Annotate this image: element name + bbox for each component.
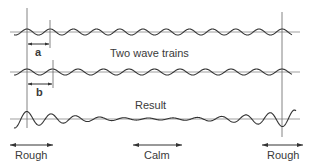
wave-diagram xyxy=(0,0,312,167)
rough-left-arrow xyxy=(10,143,53,147)
marker-a-arrow-left xyxy=(28,43,32,46)
marker-b-arrow-right xyxy=(48,83,52,86)
rough-left-label: Rough xyxy=(15,150,47,161)
marker-a-label: a xyxy=(35,47,41,58)
marker-b-label: b xyxy=(36,87,43,98)
marker-a-arrow-right xyxy=(45,43,49,46)
rough-right-label: Rough xyxy=(267,150,299,161)
calm-label: Calm xyxy=(144,150,170,161)
rough-right-arrow xyxy=(262,143,303,147)
result-label: Result xyxy=(135,100,166,111)
two-wave-trains-label: Two wave trains xyxy=(110,48,189,59)
calm-arrow xyxy=(133,143,182,147)
marker-b-arrow-left xyxy=(28,83,32,86)
